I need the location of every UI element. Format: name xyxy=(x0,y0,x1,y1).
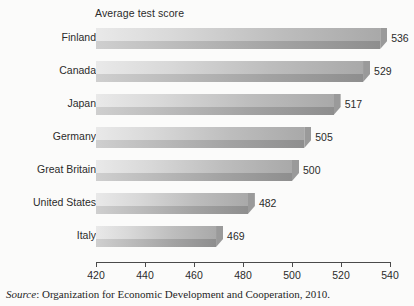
bar-value-label: 482 xyxy=(259,197,277,209)
bar-row: United States482 xyxy=(0,192,414,225)
category-label: Italy xyxy=(0,229,96,241)
bar-value-label: 505 xyxy=(315,131,333,143)
bar xyxy=(96,226,216,247)
category-label: Great Britain xyxy=(0,163,96,175)
bar-top-face xyxy=(96,193,248,206)
bar-row: Italy469 xyxy=(0,225,414,258)
bar-end-cap xyxy=(248,193,255,214)
bar-bottom-face xyxy=(96,239,216,247)
bar-value-label: 469 xyxy=(227,230,245,242)
bar-top-face xyxy=(96,61,363,74)
chart-figure: Average test score Finland536Canada529Ja… xyxy=(0,0,414,306)
bar xyxy=(96,61,363,82)
bar-end-cap xyxy=(292,160,299,181)
category-label: Japan xyxy=(0,97,96,109)
x-tick-mark xyxy=(390,262,391,267)
x-tick-label: 500 xyxy=(272,269,312,281)
category-label: Germany xyxy=(0,130,96,142)
bar-end-cap xyxy=(304,127,311,148)
bar xyxy=(96,28,380,49)
source-text: : Organization for Economic Development … xyxy=(36,288,330,300)
x-tick-label: 440 xyxy=(125,269,165,281)
x-tick-mark xyxy=(145,262,146,267)
bar-row: Finland536 xyxy=(0,27,414,60)
bar-bottom-face xyxy=(96,74,363,82)
bar-bottom-face xyxy=(96,107,334,115)
bar-bottom-face xyxy=(96,140,304,148)
category-label: Canada xyxy=(0,64,96,76)
bar-row: Canada529 xyxy=(0,60,414,93)
x-tick-label: 540 xyxy=(370,269,410,281)
bar-row: Japan517 xyxy=(0,93,414,126)
x-tick-mark xyxy=(243,262,244,267)
x-tick-mark xyxy=(194,262,195,267)
x-tick-mark xyxy=(341,262,342,267)
bar-top-face xyxy=(96,160,292,173)
bar-end-cap xyxy=(380,28,387,49)
bar-value-label: 500 xyxy=(303,164,321,176)
x-tick-label: 480 xyxy=(223,269,263,281)
bar-row: Germany505 xyxy=(0,126,414,159)
bar-value-label: 517 xyxy=(345,98,363,110)
x-tick-mark xyxy=(96,262,97,267)
x-tick-label: 420 xyxy=(76,269,116,281)
x-tick-mark xyxy=(292,262,293,267)
chart-title: Average test score xyxy=(95,7,184,19)
category-label: Finland xyxy=(0,31,96,43)
bar-value-label: 536 xyxy=(391,32,409,44)
bar xyxy=(96,160,292,181)
x-axis: 420440460480500520540 xyxy=(0,262,414,286)
bar-bottom-face xyxy=(96,41,380,49)
bar-bottom-face xyxy=(96,206,248,214)
bar-end-cap xyxy=(363,61,370,82)
bar xyxy=(96,127,304,148)
x-tick-label: 520 xyxy=(321,269,361,281)
bar-end-cap xyxy=(216,226,223,247)
source-note: Source: Organization for Economic Develo… xyxy=(6,288,330,300)
category-label: United States xyxy=(0,196,96,208)
bar-value-label: 529 xyxy=(374,65,392,77)
bar-row: Great Britain500 xyxy=(0,159,414,192)
bar-top-face xyxy=(96,94,334,107)
bar-bottom-face xyxy=(96,173,292,181)
bar-top-face xyxy=(96,127,304,140)
bar xyxy=(96,94,334,115)
x-tick-label: 460 xyxy=(174,269,214,281)
source-label: Source xyxy=(6,288,36,300)
bar xyxy=(96,193,248,214)
bar-end-cap xyxy=(334,94,341,115)
plot-area: Finland536Canada529Japan517Germany505Gre… xyxy=(0,27,414,262)
bar-top-face xyxy=(96,28,380,41)
bar-top-face xyxy=(96,226,216,239)
